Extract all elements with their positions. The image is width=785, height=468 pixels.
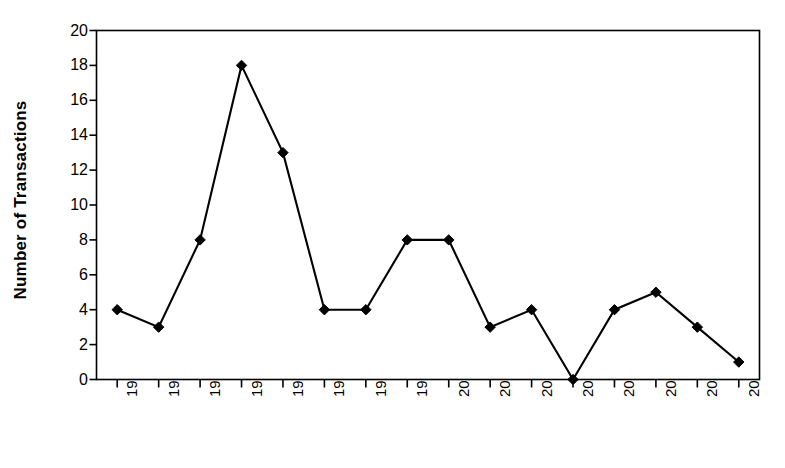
plot-frame bbox=[97, 31, 760, 380]
plot-area bbox=[0, 0, 785, 468]
line-chart: Number of Transactions 02468101214161820… bbox=[0, 0, 785, 468]
x-axis-ticks bbox=[117, 380, 739, 388]
y-axis-ticks bbox=[90, 31, 97, 380]
